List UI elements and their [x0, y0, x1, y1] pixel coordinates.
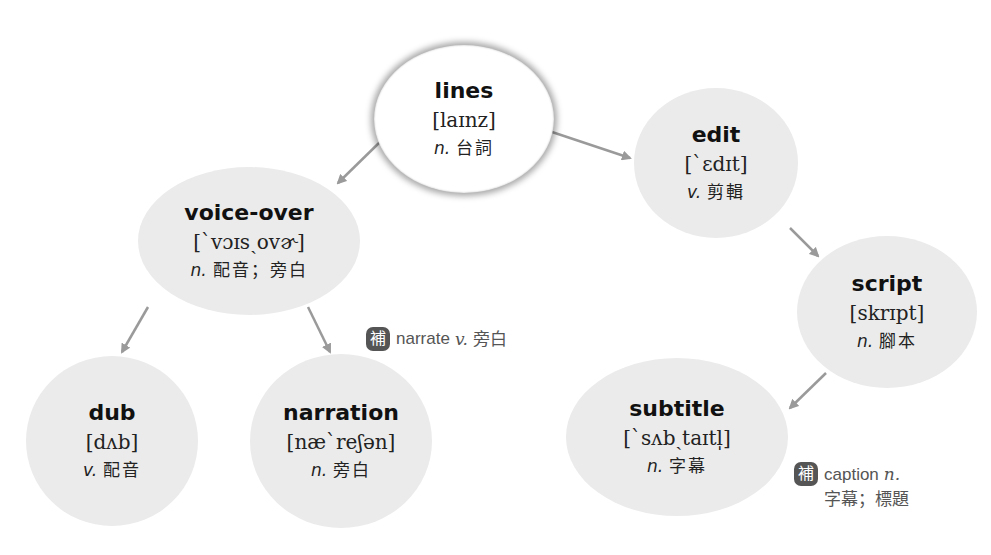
node-ipa: [næˋreʃən] — [287, 427, 396, 457]
node-meaning: 腳本 — [879, 331, 917, 351]
node-meaning: 配音；旁白 — [213, 260, 308, 280]
node-meaning: 剪輯 — [707, 182, 745, 202]
note-caption: 補 captionn. 字幕；標題 — [794, 462, 909, 511]
node-ipa: [ˋsʌbˏtaɪtl̩] — [623, 423, 730, 453]
note-word: caption — [824, 465, 879, 484]
note-narrate: 補 narrate v. 旁白 — [366, 327, 507, 351]
node-subtitle: subtitle [ˋsʌbˏtaɪtl̩] n.字幕 — [566, 358, 788, 516]
node-dub: dub [dʌb] v.配音 — [26, 356, 198, 526]
arrow-voice-over-to-narration — [308, 307, 330, 352]
arrow-lines-to-edit — [552, 132, 630, 158]
node-word: lines — [435, 77, 494, 105]
node-word: subtitle — [629, 395, 725, 423]
node-pos: v. — [687, 182, 701, 202]
node-script: script [skrɪpt] n.腳本 — [797, 236, 977, 388]
node-pos: v. — [83, 460, 97, 480]
note-meaning: 旁白 — [473, 327, 507, 351]
arrow-voice-over-to-dub — [122, 307, 148, 352]
node-word: edit — [692, 121, 741, 149]
arrow-script-to-subtitle — [790, 373, 826, 408]
node-meaning: 台詞 — [456, 138, 494, 158]
arrow-edit-to-script — [790, 228, 818, 256]
node-ipa: [dʌb] — [86, 427, 139, 457]
node-word: narration — [283, 399, 399, 427]
node-ipa: [ˋɛdɪt] — [684, 149, 747, 179]
node-edit: edit [ˋɛdɪt] v.剪輯 — [634, 88, 798, 238]
node-ipa: [skrɪpt] — [850, 298, 925, 328]
node-word: script — [852, 270, 923, 298]
node-ipa: [laɪnz] — [432, 105, 496, 135]
node-pos: n. — [311, 460, 327, 480]
supplement-badge-icon: 補 — [366, 327, 390, 351]
node-pos: n. — [857, 331, 873, 351]
note-pos: v. — [455, 327, 468, 351]
node-ipa: [ˋvɔɪsˏovɚ] — [193, 227, 305, 257]
note-meaning: 字幕；標題 — [824, 487, 909, 511]
note-word: narrate — [396, 327, 450, 351]
node-pos: n. — [190, 260, 206, 280]
node-meaning: 旁白 — [333, 460, 371, 480]
node-pos: n. — [434, 138, 450, 158]
supplement-badge-icon: 補 — [794, 462, 818, 486]
node-narration: narration [næˋreʃən] n.旁白 — [250, 354, 432, 528]
node-lines: lines [laɪnz] n.台詞 — [374, 45, 554, 193]
node-meaning: 字幕 — [669, 456, 707, 476]
node-word: voice-over — [184, 199, 313, 227]
node-pos: n. — [647, 456, 663, 476]
note-pos: n. — [884, 464, 900, 484]
arrow-lines-to-voice-over — [338, 140, 382, 183]
node-word: dub — [88, 399, 135, 427]
node-voice-over: voice-over [ˋvɔɪsˏovɚ] n.配音；旁白 — [138, 167, 360, 315]
node-meaning: 配音 — [103, 460, 141, 480]
